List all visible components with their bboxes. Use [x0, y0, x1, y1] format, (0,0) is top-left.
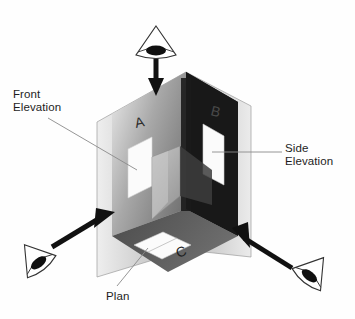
eye-icon-top — [136, 26, 176, 59]
eye-icon-bottom-right — [290, 247, 338, 294]
label-side-elevation: Side Elevation — [285, 142, 333, 168]
label-front-elevation: Front Elevation — [13, 88, 61, 114]
eye-icon-bottom-left — [10, 234, 58, 281]
label-plan: Plan — [106, 290, 129, 303]
diagram-canvas: A B C — [0, 0, 355, 319]
